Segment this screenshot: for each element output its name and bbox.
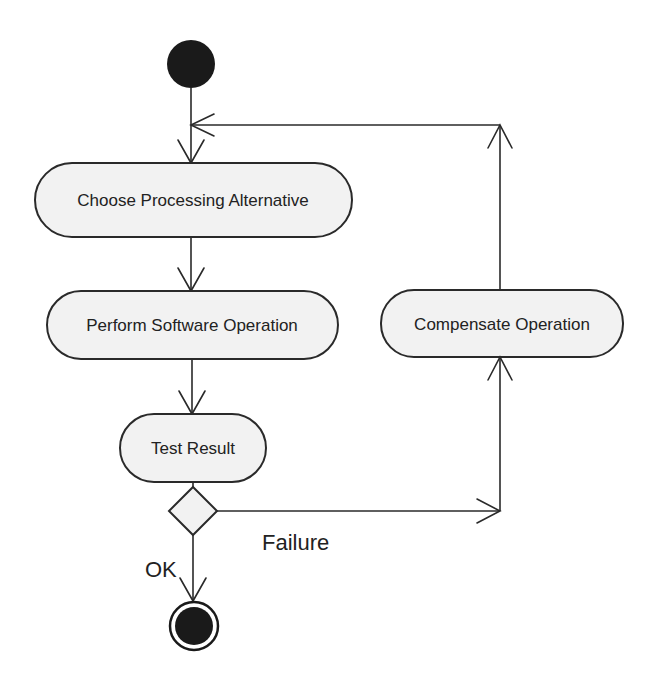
- edge-decision-to-final: [180, 535, 206, 601]
- guard-label-ok: OK: [145, 557, 177, 582]
- initial-node: [167, 40, 215, 88]
- edge-perform-to-test: [179, 359, 205, 414]
- action-test-result: Test Result: [120, 414, 266, 482]
- decision-node: [169, 487, 217, 535]
- guard-label-failure: Failure: [262, 530, 329, 555]
- action-label: Test Result: [151, 439, 235, 458]
- action-label: Choose Processing Alternative: [77, 191, 309, 210]
- action-choose-processing-alternative: Choose Processing Alternative: [35, 163, 352, 237]
- action-compensate-operation: Compensate Operation: [381, 290, 623, 357]
- edge-choose-to-perform: [178, 237, 204, 291]
- action-label: Compensate Operation: [414, 315, 590, 334]
- action-label: Perform Software Operation: [86, 316, 298, 335]
- activity-diagram: Choose Processing Alternative Perform So…: [0, 0, 654, 684]
- final-node: [170, 602, 218, 650]
- action-perform-software-operation: Perform Software Operation: [47, 291, 338, 359]
